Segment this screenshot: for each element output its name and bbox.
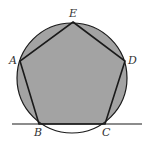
label-b: B (33, 126, 42, 139)
geometry-diagram: E A D B C (0, 0, 152, 150)
label-e: E (68, 7, 77, 20)
label-d: D (127, 54, 137, 67)
label-c: C (102, 126, 111, 139)
label-a: A (8, 54, 17, 67)
